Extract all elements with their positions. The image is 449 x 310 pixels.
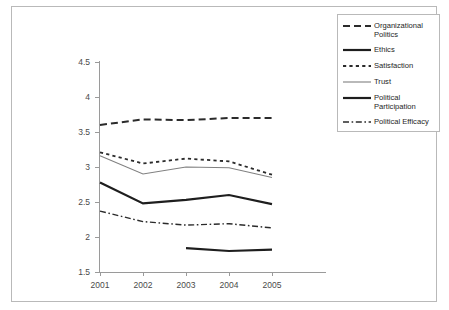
legend-line-swatch-icon <box>342 76 372 87</box>
y-tick-label: 2.5 <box>64 198 90 206</box>
x-tick-label: 2004 <box>209 281 249 290</box>
legend-line-swatch-icon <box>342 60 372 71</box>
chart-figure: 1.522.533.544.5 20012002200320042005 Org… <box>0 0 449 310</box>
y-tick-label: 3 <box>64 163 90 171</box>
y-tick-mark <box>95 167 99 168</box>
legend-item-label: Trust <box>374 76 391 86</box>
x-tick-label: 2003 <box>166 281 206 290</box>
x-tick-mark <box>143 272 144 276</box>
legend-line-swatch-icon <box>342 44 372 55</box>
legend-item-label: Ethics <box>374 44 395 54</box>
y-tick-mark <box>95 132 99 133</box>
legend-item: Ethics <box>342 44 435 55</box>
legend-item: Political Participation <box>342 92 435 111</box>
y-tick-mark <box>95 202 99 203</box>
y-axis-line <box>99 61 100 273</box>
legend-line-swatch-icon <box>342 92 372 103</box>
legend-item: Trust <box>342 76 435 87</box>
y-tick-mark <box>95 97 99 98</box>
legend-item: Satisfaction <box>342 60 435 71</box>
legend-item-label: Political Efficacy <box>374 116 429 126</box>
x-tick-mark <box>100 272 101 276</box>
legend-item-label: Satisfaction <box>374 60 413 70</box>
legend-item-label: Organizational Politics <box>374 20 435 39</box>
x-tick-mark <box>272 272 273 276</box>
y-tick-label: 4.5 <box>64 58 90 66</box>
y-tick-label: 3.5 <box>64 128 90 136</box>
legend-item: Political Efficacy <box>342 116 435 127</box>
y-tick-mark <box>95 62 99 63</box>
chart-legend: Organizational PoliticsEthicsSatisfactio… <box>337 14 440 132</box>
y-tick-label: 4 <box>64 93 90 101</box>
y-tick-mark <box>95 237 99 238</box>
x-tick-label: 2001 <box>80 281 120 290</box>
legend-line-swatch-icon <box>342 116 372 127</box>
legend-item: Organizational Politics <box>342 20 435 39</box>
x-tick-mark <box>186 272 187 276</box>
x-tick-label: 2005 <box>252 281 292 290</box>
y-tick-label: 1.5 <box>64 268 90 276</box>
legend-line-swatch-icon <box>342 20 372 31</box>
y-tick-label: 2 <box>64 233 90 241</box>
legend-item-label: Political Participation <box>374 92 435 111</box>
x-tick-mark <box>229 272 230 276</box>
x-tick-label: 2002 <box>123 281 163 290</box>
x-axis-line <box>99 272 326 273</box>
y-tick-mark <box>95 272 99 273</box>
